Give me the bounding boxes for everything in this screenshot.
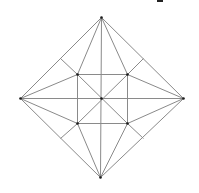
vertex-R (182, 97, 185, 100)
segment-T-I2 (102, 18, 128, 75)
segment-M1-I1 (61, 59, 78, 75)
segment-R-B (101, 99, 184, 178)
segment-T-I1 (78, 18, 102, 75)
vertex-I1 (76, 73, 79, 76)
vertex-L (19, 97, 22, 100)
segment-L-I1 (21, 75, 78, 99)
vertex-B (99, 176, 102, 179)
vertex-I4 (126, 122, 129, 125)
diagram-vertices (19, 16, 185, 179)
vertex-I2 (126, 73, 129, 76)
vertex-C (100, 97, 103, 100)
cropped-text-fragment (157, 0, 163, 2)
segment-T-R (102, 18, 184, 99)
segment-R-I4 (128, 99, 184, 124)
segment-L-I3 (21, 99, 78, 124)
segment-M3-I3 (61, 124, 78, 139)
segment-M2-I2 (128, 59, 144, 75)
vertex-T (100, 16, 103, 19)
segment-M4-I4 (128, 124, 144, 139)
segment-B-I4 (101, 124, 128, 178)
segment-R-I2 (128, 75, 184, 99)
vertex-I3 (76, 122, 79, 125)
geometric-diagram (0, 0, 199, 193)
segment-B-I3 (78, 124, 101, 178)
